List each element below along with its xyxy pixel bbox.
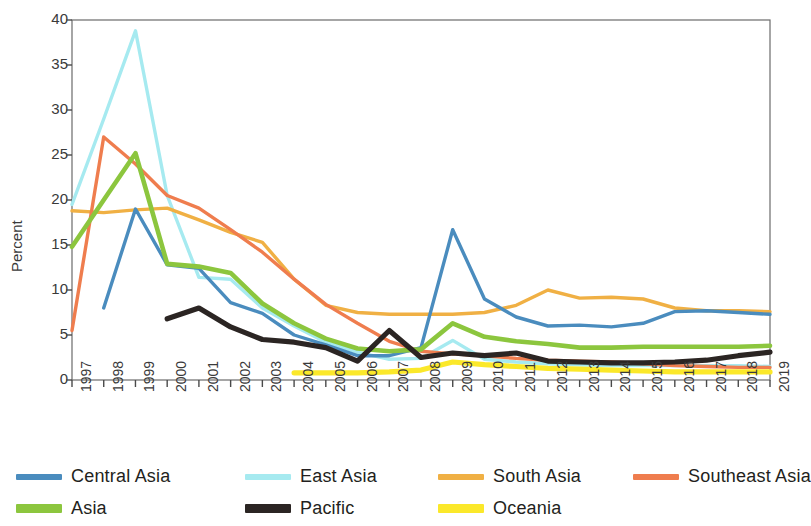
x-axis-tick-label: 1999 — [141, 361, 157, 392]
legend-item-east-asia[interactable]: East Asia — [245, 466, 377, 487]
legend-item-central-asia[interactable]: Central Asia — [16, 466, 170, 487]
x-axis-tick-label: 2015 — [649, 361, 665, 392]
x-axis-tick-label: 2014 — [617, 361, 633, 392]
legend-swatch-icon — [16, 474, 62, 480]
legend-swatch-icon — [633, 474, 679, 480]
legend-item-label: Asia — [71, 498, 107, 519]
x-axis-tick-label: 2016 — [681, 361, 697, 392]
x-axis-tick-label: 2011 — [522, 362, 538, 392]
legend-swatch-icon — [245, 504, 291, 513]
legend-swatch-icon — [438, 504, 484, 513]
x-axis-tick-label: 2007 — [395, 361, 411, 392]
x-axis-tick-label: 2001 — [205, 361, 221, 392]
legend-swatch-icon — [438, 474, 484, 480]
legend-item-label: South Asia — [493, 466, 581, 487]
legend-swatch-icon — [16, 504, 62, 513]
legend-swatch-icon — [245, 474, 291, 480]
chart-legend: Central AsiaEast AsiaSouth AsiaSoutheast… — [8, 466, 798, 526]
plot-area — [0, 0, 798, 466]
legend-item-south-asia[interactable]: South Asia — [438, 466, 581, 487]
legend-item-label: Pacific — [300, 498, 354, 519]
legend-item-pacific[interactable]: Pacific — [245, 498, 354, 519]
x-axis-tick-label: 2006 — [364, 361, 380, 392]
legend-item-oceania[interactable]: Oceania — [438, 498, 561, 519]
legend-item-label: Oceania — [493, 498, 561, 519]
x-axis-tick-label: 2000 — [173, 361, 189, 392]
x-axis-tick-label: 2003 — [268, 361, 284, 392]
x-axis-tick-label: 1998 — [110, 361, 126, 392]
x-axis-tick-label: 2012 — [554, 361, 570, 392]
legend-item-southeast-asia[interactable]: Southeast Asia — [633, 466, 811, 487]
legend-item-label: Central Asia — [71, 466, 170, 487]
x-axis-tick-label: 2008 — [427, 361, 443, 392]
x-axis-tick-label: 2002 — [237, 361, 253, 392]
legend-item-label: Southeast Asia — [688, 466, 811, 487]
x-axis-tick-label: 2013 — [586, 361, 602, 392]
legend-item-label: East Asia — [300, 466, 377, 487]
series-line-pacific — [167, 308, 770, 363]
x-axis-tick-label: 2005 — [332, 361, 348, 392]
x-axis-tick-label: 2019 — [776, 361, 792, 392]
x-axis-tick-label: 2018 — [744, 361, 760, 392]
series-line-southeast-asia — [72, 137, 770, 367]
x-axis-tick-label: 1997 — [78, 361, 94, 392]
series-line-asia — [72, 153, 770, 351]
x-axis-tick-label: 2010 — [490, 361, 506, 392]
legend-item-asia[interactable]: Asia — [16, 498, 107, 519]
x-axis-tick-label: 2017 — [713, 361, 729, 392]
x-axis-tick-label: 2004 — [300, 361, 316, 392]
x-axis-tick-label: 2009 — [459, 361, 475, 392]
